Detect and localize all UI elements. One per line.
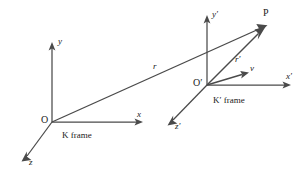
k-frame-group: [22, 42, 144, 162]
diagram-canvas: [0, 0, 304, 179]
k-prime-frame-group: [168, 15, 292, 126]
vectors-group: [52, 24, 268, 122]
r-vector-line: [52, 29, 259, 122]
reference-frames-diagram: y x z O K frame y′ x′ z′ O′ K′ frame r r…: [0, 0, 304, 179]
r-prime-vector-arrowhead: [255, 27, 266, 40]
k-frame-z-axis-line: [27, 122, 52, 156]
k-prime-frame-z-axis-line: [173, 85, 207, 120]
